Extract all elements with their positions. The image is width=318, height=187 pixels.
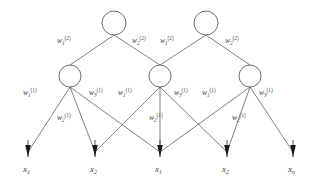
hidden-node-3 (239, 65, 261, 87)
arrow-down-icon-5 (290, 145, 296, 157)
output-node-2 (194, 11, 218, 35)
output-node-1 (102, 11, 126, 35)
hidden-layer-nodes (59, 65, 261, 87)
weight-label-layer2-1: w1(2) (57, 36, 71, 46)
arrow-down-icon-4 (224, 145, 230, 157)
weight-label-layer2-3: w1(2) (160, 36, 174, 46)
edge-hid2-in4 (160, 87, 227, 152)
output-layer-nodes (102, 11, 218, 35)
weight-label-layer1-7: w1(1) (202, 88, 216, 98)
weight-label-layer2-4: w2(2) (225, 36, 239, 46)
input-label-3: x1 (155, 165, 162, 175)
input-arrowheads (25, 145, 296, 157)
weight-label-layer2-2: w2(2) (132, 36, 146, 46)
weight-label-layer1-3: w3(1) (89, 88, 103, 98)
input-label-4: x2 (222, 165, 229, 175)
input-label-1: x1 (23, 165, 30, 175)
weight-label-layer1-9: w3(1) (259, 88, 273, 98)
weight-label-layer1-2: w2(1) (57, 113, 71, 123)
input-label-5: xn (288, 165, 295, 175)
hidden-node-2 (149, 65, 171, 87)
weight-label-layer1-1: w1(1) (23, 88, 37, 98)
weight-label-layer1-6: w3(1) (174, 88, 188, 98)
weight-label-layer1-5: w2(1) (149, 113, 163, 123)
edge-hid1-in3 (70, 87, 160, 152)
weight-label-layer1-8: w2(1) (232, 113, 246, 123)
arrow-down-icon-2 (92, 145, 98, 157)
neural-network-diagram: w1(2) w2(2) w1(2) w2(2) w1(1) w2(1) w3(1… (0, 0, 318, 187)
hidden-node-1 (59, 65, 81, 87)
weight-label-layer1-4: w1(1) (118, 88, 132, 98)
input-label-2: x2 (90, 165, 97, 175)
arrow-down-icon-1 (25, 145, 31, 157)
edge-out1-hid1 (70, 35, 114, 65)
